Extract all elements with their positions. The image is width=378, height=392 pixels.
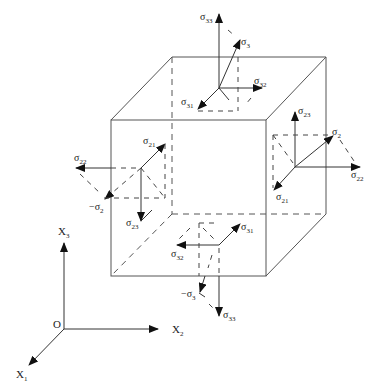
bottom-face-stresses: σ31 σ32 −σ3 σ33 [171, 221, 254, 323]
label-origin: O [53, 318, 61, 330]
label-sigma23-right: σ23 [298, 105, 311, 119]
arrow-sigma3 [219, 40, 240, 88]
label-sigma21-left: σ21 [143, 135, 156, 149]
dashed-guide [178, 228, 190, 240]
dashed-guide [203, 228, 217, 242]
right-face-stresses: σ23 σ2 σ22 σ21 [273, 105, 364, 205]
arrow-sigma2 [295, 136, 333, 167]
coordinate-axes: O X3 X2 X1 [16, 225, 184, 383]
label-sigma3: σ3 [241, 36, 250, 50]
dashed-guide [340, 140, 356, 164]
tick [141, 210, 152, 221]
arrow-neg-sigma2 [105, 168, 141, 199]
arrow-sigma21 [274, 167, 295, 190]
dashed-guide [273, 135, 293, 163]
left-face-stresses: σ21 σ22 −σ2 σ23 [74, 135, 165, 231]
cube [111, 57, 326, 276]
axis-x1 [29, 329, 64, 365]
tick [199, 293, 205, 297]
label-neg-sigma3: −σ3 [181, 288, 196, 302]
arrow-sigma31 [198, 88, 219, 109]
tick [219, 88, 229, 100]
label-sigma22-right: σ22 [351, 169, 364, 183]
label-sigma33-bottom: σ33 [223, 309, 236, 323]
label-sigma31: σ31 [181, 96, 194, 110]
label-x1: X1 [16, 368, 28, 383]
label-x2: X2 [172, 323, 184, 338]
label-sigma32-bottom: σ32 [171, 248, 184, 262]
arrow-neg-sigma3 [200, 276, 205, 292]
label-sigma21-right: σ21 [276, 191, 289, 205]
label-sigma2: σ2 [332, 126, 341, 140]
stress-cube-diagram: σ33 σ3 σ32 σ31 σ23 σ2 σ22 σ21 σ21 σ22 −σ… [0, 0, 378, 392]
dashed-guide [141, 168, 165, 198]
dashed-guide [246, 98, 251, 104]
dashed-guide [209, 304, 216, 311]
label-sigma33: σ33 [200, 11, 213, 25]
arrow-sigma31-bottom [219, 224, 240, 245]
top-face-stresses: σ33 σ3 σ32 σ31 [181, 11, 267, 111]
cube-hidden-edge [111, 214, 172, 276]
dashed-guide [228, 30, 235, 36]
label-sigma23-left: σ23 [126, 217, 139, 231]
label-x3: X3 [58, 225, 70, 240]
label-sigma32: σ32 [254, 75, 267, 89]
label-neg-sigma2: −σ2 [89, 201, 104, 215]
diagram-svg: σ33 σ3 σ32 σ31 σ23 σ2 σ22 σ21 σ21 σ22 −σ… [0, 0, 378, 392]
dashed-guide [208, 255, 212, 268]
label-sigma22-left: σ22 [74, 152, 87, 166]
label-sigma31-bottom: σ31 [241, 221, 254, 235]
dashed-guide [80, 174, 101, 194]
